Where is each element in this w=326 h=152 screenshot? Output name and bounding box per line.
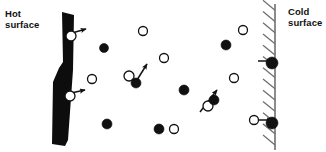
molecule-fast: [131, 78, 141, 88]
molecule-group: [65, 26, 278, 135]
cold-surface-hatch: [263, 45, 275, 55]
cold-surface-hatch: [263, 101, 275, 111]
molecule-fast: [179, 85, 189, 95]
hot-surface-label: Hot surface: [5, 8, 40, 30]
molecule-slow: [139, 27, 148, 36]
cold-surface-hatch: [263, 135, 275, 145]
molecule-slow: [88, 75, 97, 84]
cold-surface-hatch: [263, 79, 275, 89]
molecule-fast: [266, 57, 278, 69]
molecule-slow: [250, 116, 259, 125]
molecule-fast: [154, 124, 164, 134]
molecule-slow: [65, 91, 75, 101]
cold-surface-hatch: [263, 0, 275, 10]
molecule-slow: [66, 31, 76, 41]
molecule-fast: [100, 44, 109, 53]
molecule-slow: [230, 74, 239, 83]
cold-surface-hatch: [263, 23, 275, 33]
velocity-arrow: [137, 64, 147, 80]
molecule-fast: [102, 119, 112, 129]
molecule-fast: [221, 40, 231, 50]
cold-surface-hatch: [263, 34, 275, 44]
molecule-slow: [160, 54, 169, 63]
cold-surface-hatch: [263, 12, 275, 22]
molecule-fast: [209, 95, 219, 105]
figure-canvas: Hot surface Cold surface: [0, 0, 326, 152]
molecule-slow: [239, 26, 248, 35]
diagram-svg: [0, 0, 326, 152]
cold-surface-hatch: [263, 68, 275, 78]
molecule-fast: [266, 117, 278, 129]
molecule-slow: [170, 125, 179, 134]
cold-surface-label: Cold surface: [288, 6, 323, 28]
cold-surface-hatch: [263, 90, 275, 100]
velocity-arrow-group: [71, 29, 272, 120]
